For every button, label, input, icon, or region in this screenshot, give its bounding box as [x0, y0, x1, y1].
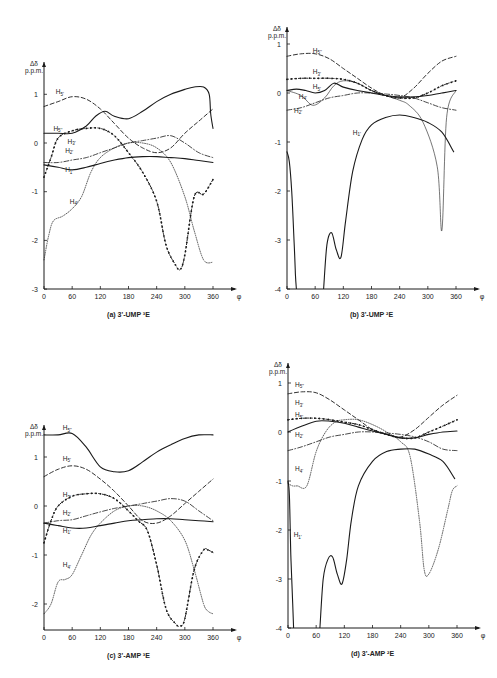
marker-dot — [99, 127, 101, 129]
marker-dot — [190, 586, 192, 588]
y-tick-label: 0 — [34, 140, 38, 147]
marker-dot — [142, 171, 144, 173]
marker-dot — [95, 492, 97, 494]
marker-dot — [158, 575, 160, 577]
marker-dot — [72, 130, 74, 132]
marker-dot — [51, 155, 53, 157]
y-tick-label: -1 — [32, 188, 38, 195]
marker-dot — [156, 566, 158, 568]
marker-dot — [158, 208, 160, 210]
figure-caption-line-cutoff — [0, 672, 497, 678]
y-tick-label: -1 — [275, 139, 281, 146]
marker-dot — [60, 135, 62, 137]
series-label: H3' — [67, 138, 75, 147]
y-tick-label: -1 — [276, 478, 282, 485]
marker-dot — [305, 417, 307, 419]
x-axis-arrow-icon — [231, 287, 237, 291]
y-axis-unit: p.p.m. — [25, 430, 43, 438]
marker-dot — [166, 248, 168, 250]
marker-dot — [162, 593, 164, 595]
marker-dot — [367, 427, 369, 429]
marker-dot — [103, 129, 105, 131]
marker-dot — [287, 419, 289, 421]
panel-b-3ump-2e: Δδp.p.m.10-1-2-3-4060120180240300360φH5'… — [268, 25, 485, 319]
marker-dot — [292, 418, 294, 420]
x-tick-label: 120 — [338, 632, 350, 639]
x-tick-label: 60 — [312, 632, 320, 639]
series-label: H4' — [70, 198, 78, 207]
marker-dot — [126, 509, 128, 511]
y-axis-label: Δδ — [30, 423, 38, 430]
marker-dot — [173, 621, 175, 623]
marker-dot — [137, 164, 139, 166]
y-tick-label: -2 — [275, 188, 281, 195]
y-axis-unit: p.p.m. — [25, 67, 43, 75]
series-group — [287, 392, 458, 628]
marker-dot — [207, 549, 209, 551]
x-tick-label: 60 — [68, 634, 76, 641]
marker-dot — [160, 217, 162, 219]
series-label: H2' — [65, 147, 73, 156]
marker-dot — [208, 187, 210, 189]
marker-dot — [426, 93, 428, 95]
marker-dot — [53, 512, 55, 514]
marker-dot — [180, 625, 182, 627]
marker-dot — [191, 206, 193, 208]
marker-dot — [184, 617, 186, 619]
marker-dot — [314, 417, 316, 419]
marker-dot — [442, 85, 444, 87]
marker-dot — [143, 524, 145, 526]
marker-dot — [104, 494, 106, 496]
marker-dot — [100, 493, 102, 495]
marker-dot — [112, 497, 114, 499]
x-tick-label: 60 — [311, 293, 319, 300]
y-tick-label: 0 — [34, 503, 38, 510]
marker-dot — [129, 153, 131, 155]
marker-dot — [313, 77, 315, 79]
marker-dot — [139, 521, 141, 523]
x-tick-label: 360 — [207, 293, 219, 300]
marker-dot — [90, 127, 92, 129]
y-tick-label: -2 — [276, 527, 282, 534]
marker-dot — [323, 418, 325, 420]
series-label: H1' — [353, 129, 361, 138]
x-axis-label: φ — [237, 293, 242, 301]
series-label: H1' — [294, 531, 302, 540]
marker-dot — [371, 429, 373, 431]
marker-dot — [210, 183, 212, 185]
panel-caption: (d) 3'-AMP ²E — [351, 650, 394, 658]
marker-dot — [175, 264, 177, 266]
marker-dot — [168, 614, 170, 616]
marker-dot — [58, 504, 60, 506]
marker-dot — [193, 197, 195, 199]
marker-dot — [152, 549, 154, 551]
marker-dot — [188, 228, 190, 230]
marker-dot — [456, 419, 458, 421]
x-tick-label: 360 — [207, 634, 219, 641]
marker-dot — [46, 533, 48, 535]
marker-dot — [310, 417, 312, 419]
marker-dot — [65, 499, 67, 501]
marker-dot — [192, 202, 194, 204]
marker-dot — [190, 210, 192, 212]
marker-dot — [295, 78, 297, 80]
x-tick-label: 180 — [367, 632, 379, 639]
series-label: H3' — [295, 399, 303, 408]
y-tick-label: 1 — [278, 380, 282, 387]
marker-dot — [85, 127, 87, 129]
marker-dot — [187, 233, 189, 235]
marker-dot — [203, 549, 205, 551]
x-axis-arrow-icon — [474, 287, 480, 291]
marker-dot — [322, 77, 324, 79]
marker-dot — [133, 515, 135, 517]
marker-dot — [354, 423, 356, 425]
x-axis-label: φ — [237, 634, 242, 642]
marker-dot — [118, 139, 120, 141]
marker-dot — [48, 525, 50, 527]
x-tick-label: 240 — [394, 293, 406, 300]
marker-dot — [120, 143, 122, 145]
y-tick-label: -3 — [276, 576, 282, 583]
marker-dot — [196, 560, 198, 562]
series-label: H5' — [56, 88, 64, 97]
marker-dot — [188, 595, 190, 597]
